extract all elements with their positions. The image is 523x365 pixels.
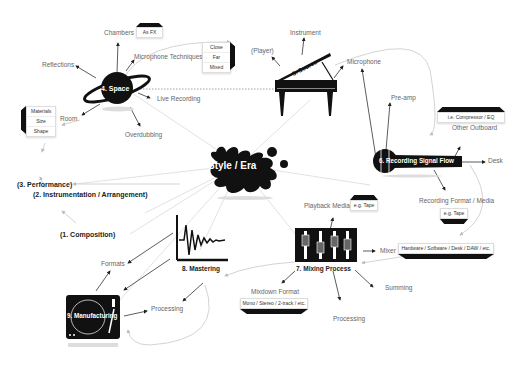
mixer-example-label: Hardware / Software / Desk / DAW / etc.: [398, 243, 494, 254]
mixing-process-label: 7. Mixing Process: [296, 266, 351, 273]
mixer-example-box: Hardware / Software / Desk / DAW / etc.: [398, 243, 494, 259]
mastering-processing-label: Processing: [151, 306, 183, 313]
mixing-processing-label: Processing: [333, 316, 365, 323]
room-option-size: Size: [27, 117, 55, 127]
room-option-materials: Materials: [27, 107, 55, 117]
overdubbing-label: Overdubbing: [125, 132, 162, 139]
chambers-label: Chambers: [104, 30, 134, 37]
waveform-graph-icon: [175, 215, 230, 263]
recording-signal-flow-node[interactable]: 6. Recording Signal Flow: [372, 148, 464, 178]
mixdown-example-label: Mono / Stereo / 2-track / etc.: [240, 298, 308, 309]
as-fx-label: As FX: [136, 27, 163, 38]
summing-label: Summing: [385, 285, 412, 292]
formats-label: Formats: [101, 261, 125, 268]
as-fx-box: As FX: [136, 23, 163, 36]
microphone-label: Microphone: [347, 59, 381, 66]
reflections-label: Reflections: [42, 62, 74, 69]
desk-label: Desk: [488, 158, 503, 165]
instrumentation-stage-label: (2. Instrumentation / Arrangement): [33, 191, 147, 198]
mastering-label: 8. Mastering: [182, 266, 220, 273]
mic-technique-options: Close Far Mixed: [202, 42, 231, 73]
mixer-label: Mixer: [380, 248, 396, 255]
mixer-faders-icon: [295, 228, 357, 262]
other-outboard-label: Other Outboard: [452, 125, 497, 132]
space-label: 4. Space: [101, 85, 129, 92]
manufacturing-label: 9. Manufacturing: [67, 313, 117, 319]
mixing-process-node[interactable]: 7. Mixing Process: [294, 228, 364, 280]
space-node[interactable]: 4. Space: [82, 68, 152, 113]
playback-example-box: e.g. Tape: [350, 195, 378, 211]
turntable-icon: [66, 295, 121, 349]
outboard-example-label: i.e. Compressor / EQ: [437, 112, 505, 123]
mic-option-close: Close: [203, 43, 230, 53]
style-era-label: Style / Era: [208, 161, 256, 171]
pre-amp-label: Pre-amp: [391, 95, 416, 102]
microphone-techniques-label: Microphone Techniques: [134, 54, 203, 61]
mixdown-example-box: Mono / Stereo / 2-track / etc.: [240, 298, 308, 314]
recording-format-example-label: e.g. Tape: [440, 208, 468, 219]
mastering-node[interactable]: 8. Mastering: [175, 215, 230, 275]
room-options: Materials Size Shape: [26, 106, 56, 137]
composition-stage-label: (1. Composition): [60, 231, 115, 238]
recording-format-example-box: e.g. Tape: [440, 208, 468, 224]
playback-media-label: Playback Media: [304, 203, 350, 210]
room-option-shape: Shape: [27, 127, 55, 136]
style-era-node[interactable]: Style / Era: [200, 140, 290, 200]
mixdown-format-label: Mixdown Format: [251, 289, 299, 296]
recording-format-label: Recording Format / Media: [419, 198, 494, 205]
live-recording-label: Live Recording: [157, 96, 200, 103]
instrument-label: Instrument: [290, 30, 321, 37]
recording-signal-flow-label: 6. Recording Signal Flow: [379, 158, 454, 164]
player-label: (Player): [251, 48, 274, 55]
mic-option-far: Far: [203, 53, 230, 63]
outboard-example-box: i.e. Compressor / EQ: [437, 107, 505, 123]
performance-stage-label: (3. Performance): [17, 181, 72, 188]
mic-option-mixed: Mixed: [203, 63, 230, 72]
room-label: Room: [60, 116, 77, 123]
mic-options-bracket: [230, 42, 235, 70]
source-node[interactable]: 5. Source: [275, 50, 340, 120]
playback-example-label: e.g. Tape: [350, 200, 378, 211]
manufacturing-node[interactable]: 9. Manufacturing: [66, 295, 121, 349]
piano-icon: [275, 50, 340, 120]
